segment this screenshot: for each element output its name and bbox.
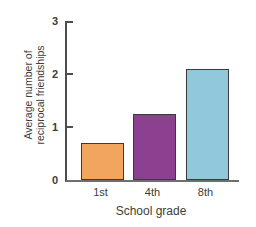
bar-8th bbox=[186, 69, 229, 180]
x-tick-label-8th: 8th bbox=[186, 186, 226, 199]
y-tick-label-1: 1 bbox=[38, 120, 58, 135]
y-tick-label-2: 2 bbox=[38, 67, 58, 82]
y-axis-label-line1: Average number of bbox=[22, 23, 34, 167]
x-tick-label-1st: 1st bbox=[81, 186, 121, 199]
y-tick-label-0: 0 bbox=[38, 173, 58, 188]
y-tick-mark-2 bbox=[67, 73, 73, 75]
bar-4th bbox=[133, 114, 176, 180]
bar-1st bbox=[81, 143, 124, 180]
plot-area bbox=[65, 21, 239, 182]
y-axis-label: Average number of reciprocal friendships bbox=[22, 23, 46, 167]
y-tick-mark-1 bbox=[67, 126, 73, 128]
y-tick-label-3: 3 bbox=[38, 14, 58, 29]
x-axis-label: School grade bbox=[65, 204, 237, 218]
x-tick-label-4th: 4th bbox=[133, 186, 173, 199]
y-tick-mark-3 bbox=[67, 21, 73, 23]
reciprocal-friendships-bar-chart: Average number of reciprocal friendships… bbox=[0, 0, 256, 227]
x-tick-labels: 1st4th8th bbox=[0, 186, 256, 200]
y-axis-label-line2: reciprocal friendships bbox=[34, 23, 46, 167]
